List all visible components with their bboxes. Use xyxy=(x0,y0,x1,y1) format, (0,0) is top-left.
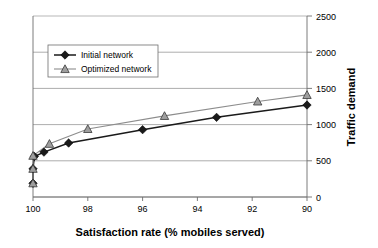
traffic-demand-line-chart: 1009896949290 05001000150020002500 Initi… xyxy=(0,0,378,248)
marker-initial-3 xyxy=(40,148,48,156)
x-tick-label-90: 90 xyxy=(302,204,312,214)
y-tick-label-1000: 1000 xyxy=(316,120,336,130)
x-axis-title: Satisfaction rate (% mobiles served) xyxy=(76,226,265,238)
x-tick-label-98: 98 xyxy=(83,204,93,214)
marker-initial-6 xyxy=(212,113,220,121)
marker-initial-5 xyxy=(138,125,146,133)
chart-container: 1009896949290 05001000150020002500 Initi… xyxy=(0,0,378,248)
series-line-initial-network xyxy=(33,105,307,183)
x-tick-label-100: 100 xyxy=(25,204,40,214)
legend-label-1[interactable]: Optimized network xyxy=(81,64,152,74)
y-tick-label-500: 500 xyxy=(316,156,331,166)
x-tick-label-94: 94 xyxy=(192,204,202,214)
y-tick-label-2500: 2500 xyxy=(316,12,336,22)
data-point-markers xyxy=(29,91,311,188)
x-tick-label-96: 96 xyxy=(138,204,148,214)
data-series xyxy=(33,95,307,183)
chart-legend[interactable]: Initial networkOptimized network xyxy=(48,45,158,77)
y-axis-ticks: 05001000150020002500 xyxy=(307,12,336,203)
grid-lines xyxy=(33,16,307,197)
x-axis-ticks: 1009896949290 xyxy=(25,197,312,214)
series-line-optimized-network xyxy=(33,95,307,183)
y-tick-label-2000: 2000 xyxy=(316,48,336,58)
y-axis-title: Traffic demand xyxy=(345,68,357,146)
marker-optimized-7 xyxy=(303,91,311,99)
y-tick-label-1500: 1500 xyxy=(316,84,336,94)
axis-lines xyxy=(33,16,307,197)
x-tick-label-92: 92 xyxy=(247,204,257,214)
marker-optimized-3 xyxy=(45,140,53,148)
y-tick-label-0: 0 xyxy=(316,193,321,203)
legend-label-0[interactable]: Initial network xyxy=(81,50,134,60)
marker-initial-4 xyxy=(64,139,72,147)
axis-titles: Satisfaction rate (% mobiles served)Traf… xyxy=(76,68,357,238)
marker-initial-7 xyxy=(303,101,311,109)
